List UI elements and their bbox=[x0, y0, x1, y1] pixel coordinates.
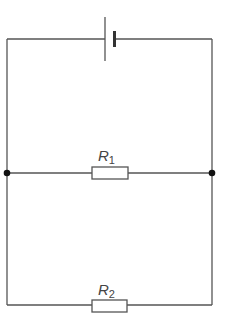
right-junction-dot-icon bbox=[209, 170, 216, 177]
resistor-r2-icon bbox=[92, 300, 127, 312]
left-junction-dot-icon bbox=[4, 170, 11, 177]
r1-label: R1 bbox=[98, 148, 115, 166]
r1-label-sub: 1 bbox=[109, 154, 115, 166]
resistor-r1-icon bbox=[92, 167, 128, 179]
r2-label: R2 bbox=[98, 282, 115, 300]
battery-icon bbox=[105, 17, 115, 61]
r2-label-main: R bbox=[98, 281, 109, 298]
r2-label-sub: 2 bbox=[109, 288, 115, 300]
r1-label-main: R bbox=[98, 147, 109, 164]
circuit-canvas bbox=[0, 0, 245, 318]
circuit-diagram: R1 R2 bbox=[0, 0, 245, 318]
